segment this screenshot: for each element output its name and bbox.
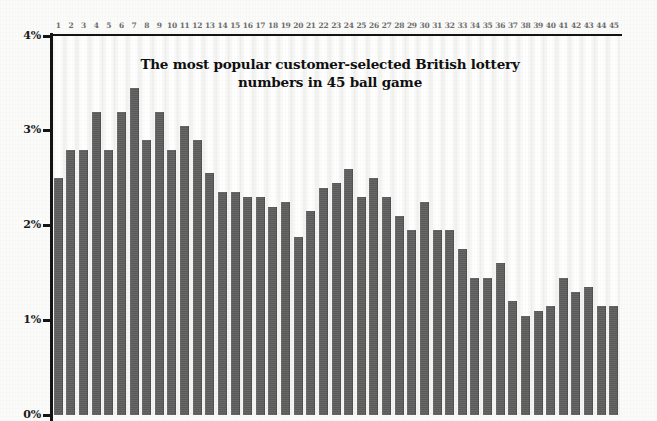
- bar-slot[interactable]: [153, 36, 166, 415]
- bar-slot[interactable]: [292, 36, 305, 415]
- bar[interactable]: [534, 311, 543, 415]
- bar[interactable]: [256, 197, 265, 415]
- bar-slot[interactable]: [77, 36, 90, 415]
- bar-slot[interactable]: [393, 36, 406, 415]
- y-axis-tick-1pct: [43, 319, 52, 322]
- bar[interactable]: [496, 263, 505, 415]
- bar[interactable]: [597, 306, 606, 415]
- bar[interactable]: [433, 230, 442, 415]
- bar-slot[interactable]: [507, 36, 520, 415]
- bar[interactable]: [294, 237, 303, 415]
- bar-slot[interactable]: [241, 36, 254, 415]
- bar[interactable]: [559, 278, 568, 415]
- x-axis-label: 23: [330, 19, 343, 32]
- y-axis-tick-4pct: [43, 35, 52, 38]
- bar-slot[interactable]: [128, 36, 141, 415]
- bar[interactable]: [104, 150, 113, 415]
- bar-slot[interactable]: [204, 36, 217, 415]
- bar[interactable]: [167, 150, 176, 415]
- x-axis-label: 14: [216, 19, 229, 32]
- bar[interactable]: [445, 230, 454, 415]
- bar[interactable]: [180, 126, 189, 415]
- bar-slot[interactable]: [406, 36, 419, 415]
- x-axis-labels: 1234567891011121314151617181920212223242…: [52, 19, 620, 32]
- bar-slot[interactable]: [494, 36, 507, 415]
- bar-slot[interactable]: [595, 36, 608, 415]
- bar[interactable]: [458, 249, 467, 415]
- bar-slot[interactable]: [443, 36, 456, 415]
- bar[interactable]: [483, 278, 492, 415]
- bar-slot[interactable]: [481, 36, 494, 415]
- bar[interactable]: [319, 188, 328, 415]
- bar-slot[interactable]: [582, 36, 595, 415]
- x-axis-label: 38: [519, 19, 532, 32]
- bar[interactable]: [584, 287, 593, 415]
- bar[interactable]: [508, 301, 517, 415]
- bar[interactable]: [243, 197, 252, 415]
- bar-slot[interactable]: [279, 36, 292, 415]
- bar-slot[interactable]: [456, 36, 469, 415]
- bar[interactable]: [369, 178, 378, 415]
- bar-slot[interactable]: [191, 36, 204, 415]
- bar[interactable]: [344, 169, 353, 415]
- bar-slot[interactable]: [418, 36, 431, 415]
- bar[interactable]: [205, 173, 214, 415]
- x-axis-label: 33: [456, 19, 469, 32]
- bar-slot[interactable]: [90, 36, 103, 415]
- bar-slot[interactable]: [305, 36, 318, 415]
- bar-slot[interactable]: [140, 36, 153, 415]
- bar[interactable]: [470, 278, 479, 415]
- bar[interactable]: [142, 140, 151, 415]
- bar[interactable]: [357, 197, 366, 415]
- bar[interactable]: [382, 197, 391, 415]
- bar[interactable]: [231, 192, 240, 415]
- bar-slot[interactable]: [431, 36, 444, 415]
- bar-slot[interactable]: [103, 36, 116, 415]
- bar[interactable]: [609, 306, 618, 415]
- bar[interactable]: [332, 183, 341, 415]
- bar[interactable]: [117, 112, 126, 415]
- bar[interactable]: [420, 202, 429, 415]
- bar-slot[interactable]: [52, 36, 65, 415]
- bar[interactable]: [193, 140, 202, 415]
- bar-slot[interactable]: [532, 36, 545, 415]
- bar-slot[interactable]: [355, 36, 368, 415]
- x-axis-label: 5: [103, 19, 116, 32]
- bar[interactable]: [218, 192, 227, 415]
- bar-slot[interactable]: [330, 36, 343, 415]
- bar[interactable]: [281, 202, 290, 415]
- bar[interactable]: [546, 306, 555, 415]
- bar-slot[interactable]: [178, 36, 191, 415]
- bar-slot[interactable]: [115, 36, 128, 415]
- x-axis-label: 40: [544, 19, 557, 32]
- bar-slot[interactable]: [229, 36, 242, 415]
- bar-slot[interactable]: [342, 36, 355, 415]
- x-axis-label: 1: [52, 19, 65, 32]
- bar[interactable]: [395, 216, 404, 415]
- bar-slot[interactable]: [570, 36, 583, 415]
- bar-slot[interactable]: [519, 36, 532, 415]
- bar-slot[interactable]: [216, 36, 229, 415]
- bar-slot[interactable]: [65, 36, 78, 415]
- bar-slot[interactable]: [469, 36, 482, 415]
- bar[interactable]: [66, 150, 75, 415]
- bar[interactable]: [155, 112, 164, 415]
- bar[interactable]: [306, 211, 315, 415]
- bar-slot[interactable]: [267, 36, 280, 415]
- bar-slot[interactable]: [254, 36, 267, 415]
- bar-slot[interactable]: [317, 36, 330, 415]
- bar[interactable]: [79, 150, 88, 415]
- bar-slot[interactable]: [380, 36, 393, 415]
- bar[interactable]: [92, 112, 101, 415]
- bar[interactable]: [54, 178, 63, 415]
- bar[interactable]: [130, 88, 139, 415]
- bar-slot[interactable]: [368, 36, 381, 415]
- bar[interactable]: [521, 316, 530, 415]
- bar[interactable]: [407, 230, 416, 415]
- bar[interactable]: [268, 207, 277, 415]
- bar-slot[interactable]: [544, 36, 557, 415]
- bar-slot[interactable]: [608, 36, 621, 415]
- bar[interactable]: [571, 292, 580, 415]
- bar-slot[interactable]: [166, 36, 179, 415]
- bar-slot[interactable]: [557, 36, 570, 415]
